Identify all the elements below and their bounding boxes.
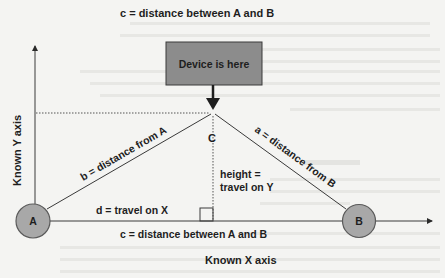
device-box-label: Device is here xyxy=(179,58,250,70)
down-arrow-icon xyxy=(206,98,220,110)
d-label: d = travel on X xyxy=(96,204,168,216)
point-a-label: A xyxy=(29,215,37,227)
y-axis-label: Known Y axis xyxy=(11,115,23,186)
diagram-canvas: c = distance between A and B Known Y axi… xyxy=(0,0,445,278)
side-b-label: b = distance from A xyxy=(78,123,169,182)
height-label-line2: travel on Y xyxy=(220,181,274,193)
title-label: c = distance between A and B xyxy=(120,7,274,19)
trilateration-diagram: c = distance between A and B Known Y axi… xyxy=(0,0,445,278)
right-angle-marker xyxy=(200,208,213,221)
point-b-label: B xyxy=(355,215,363,227)
c-bottom-label: c = distance between A and B xyxy=(120,228,268,240)
height-label-line1: height = xyxy=(220,168,261,180)
side-b-line xyxy=(47,114,211,209)
x-axis-label: Known X axis xyxy=(205,254,277,266)
point-c-label: C xyxy=(208,132,216,144)
